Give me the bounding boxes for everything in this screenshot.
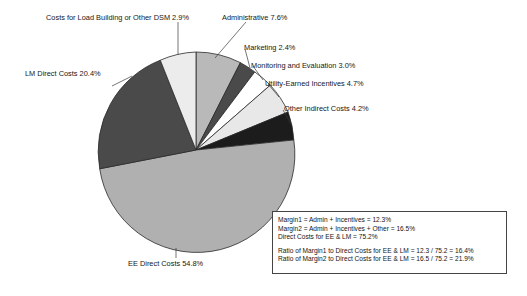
note-line-direct-costs: Direct Costs for EE & LM = 75.2% (278, 233, 501, 242)
label-monitoring-and-evaluation: Monitoring and Evaluation 3.0% (251, 61, 355, 70)
leader-line-administrative (215, 22, 246, 58)
note-line-ratio-margin1: Ratio of Margin1 to Direct Costs for EE … (278, 247, 501, 256)
label-costs-for-load-building-or-other-dsm: Costs for Load Building or Other DSM 2.9… (46, 13, 189, 22)
label-marketing: Marketing 2.4% (244, 43, 295, 52)
notes-box: Margin1 = Admin + Incentives = 12.3% Mar… (272, 211, 507, 274)
label-other-indirect-costs: Other Indirect Costs 4.2% (284, 104, 369, 113)
note-line-ratio-margin2: Ratio of Margin2 to Direct Costs for EE … (278, 255, 501, 264)
label-ee-direct-costs: EE Direct Costs 54.8% (128, 259, 203, 268)
note-line-margin2: Margin2 = Admin + Incentives + Other = 1… (278, 225, 501, 234)
label-utility-earned-incentives: Utility-Earned Incentives 4.7% (265, 79, 364, 88)
note-line-margin1: Margin1 = Admin + Incentives = 12.3% (278, 216, 501, 225)
chart-canvas: Costs for Load Building or Other DSM 2.9… (0, 0, 527, 296)
label-lm-direct-costs: LM Direct Costs 20.4% (25, 69, 101, 78)
label-administrative: Administrative 7.6% (222, 13, 287, 22)
